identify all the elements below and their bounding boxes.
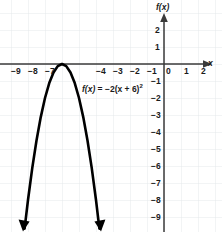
y-tick-label--7: −7 xyxy=(151,179,161,188)
x-axis-label: x xyxy=(208,59,213,68)
equation-exponent: 2 xyxy=(139,83,142,89)
x-tick-label--8: −8 xyxy=(28,67,38,76)
x-tick-label-0: 0 xyxy=(166,67,171,76)
y-tick-label-2: 2 xyxy=(155,26,160,35)
y-tick-label--6: −6 xyxy=(151,162,161,171)
graph-screenshot: 224. x f(x) −9 −8 −7 −4 −3 −2 −1 0 xyxy=(0,0,222,232)
y-tick-label--9: −9 xyxy=(151,213,161,222)
x-tick-label-1: 1 xyxy=(184,67,189,76)
equation-body: −2(x + 6) xyxy=(105,84,140,94)
x-tick-label--4: −4 xyxy=(96,67,106,76)
x-tick-label--9: −9 xyxy=(11,67,21,76)
y-tick-label--1: −1 xyxy=(151,77,161,86)
x-tick-label--1: −1 xyxy=(147,67,157,76)
y-axis-label: f(x) xyxy=(156,3,169,12)
y-tick-label--4: −4 xyxy=(151,128,161,137)
equation-function-name: f(x) xyxy=(82,84,95,94)
x-tick-label-2: 2 xyxy=(201,67,206,76)
x-tick-label--2: −2 xyxy=(130,67,140,76)
equation-equals-sign: = xyxy=(98,84,103,94)
y-tick-label--2: −2 xyxy=(151,94,161,103)
y-tick-label--5: −5 xyxy=(151,145,161,154)
x-tick-label--3: −3 xyxy=(113,67,123,76)
y-tick-label-1: 1 xyxy=(155,43,160,52)
grid-lines xyxy=(0,0,222,232)
y-tick-label--3: −3 xyxy=(151,111,161,120)
coordinate-plane-svg xyxy=(0,0,222,232)
x-tick-label--7: −7 xyxy=(45,67,55,76)
y-tick-label--8: −8 xyxy=(151,196,161,205)
function-equation-annotation: f(x) = −2(x + 6)2 xyxy=(82,84,143,94)
